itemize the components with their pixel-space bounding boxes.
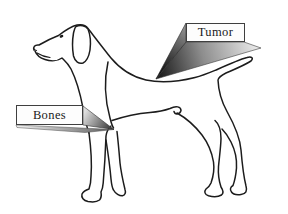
tumor-label: Tumor <box>198 26 234 39</box>
bones-label: Bones <box>33 109 66 122</box>
dog-belly-hind-leg <box>112 107 223 197</box>
tumor-label-box: Tumor <box>186 23 245 42</box>
dog-front-far-leg <box>106 132 125 196</box>
dog-shoulder-line <box>106 62 114 128</box>
dog-ear <box>73 26 91 64</box>
dog-front-near-leg <box>82 126 111 202</box>
bones-label-box: Bones <box>16 105 83 125</box>
diagram: Tumor Bones <box>0 0 288 214</box>
